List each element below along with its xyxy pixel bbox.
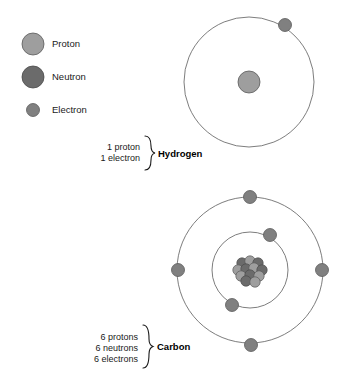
proton-icon	[22, 33, 44, 55]
carbon-count-protons: 6 protons	[100, 332, 138, 342]
hydrogen-count-electrons: 1 electron	[100, 153, 140, 163]
legend: Proton Neutron Electron	[22, 33, 87, 117]
carbon-inner-electron-2	[226, 299, 239, 312]
carbon-count-electrons: 6 electrons	[94, 354, 139, 364]
carbon-count-neutrons: 6 neutrons	[95, 343, 138, 353]
nucleus-proton	[250, 277, 260, 287]
hydrogen-electron	[279, 19, 292, 32]
electron-icon	[27, 104, 40, 117]
carbon-outer-electron-3	[245, 339, 258, 352]
carbon-inner-electron-1	[264, 229, 277, 242]
neutron-icon	[22, 66, 44, 88]
legend-label-neutron: Neutron	[52, 71, 86, 82]
carbon-outer-electron-2	[316, 264, 329, 277]
hydrogen-label: Hydrogen	[158, 148, 203, 159]
carbon-label: Carbon	[157, 341, 190, 352]
carbon-outer-electron-1	[244, 191, 257, 204]
hydrogen-nucleus-proton	[238, 71, 260, 93]
carbon-outer-electron-4	[172, 264, 185, 277]
legend-label-electron: Electron	[52, 104, 87, 115]
legend-label-proton: Proton	[52, 38, 80, 49]
hydrogen-count-protons: 1 proton	[107, 142, 140, 152]
atomic-structure-diagram: Proton Neutron Electron 1 proton 1 elect…	[0, 0, 341, 382]
legend-item-electron: Electron	[27, 104, 87, 117]
diagram-background	[0, 0, 341, 382]
